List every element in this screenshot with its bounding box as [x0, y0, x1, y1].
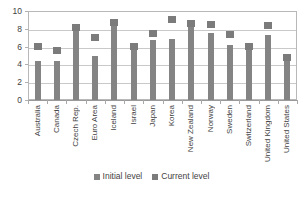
legend-item: Initial level	[94, 172, 143, 181]
marker-current-level	[91, 34, 99, 41]
bars-layer	[28, 11, 297, 100]
legend-swatch-icon	[152, 174, 158, 180]
marker-current-level	[53, 47, 61, 54]
x-tick-label: Korea	[168, 105, 176, 126]
x-tick-label: Israel	[130, 105, 138, 125]
x-tick-label: Euro Area	[91, 105, 99, 141]
bar-initial-level	[169, 39, 175, 100]
x-tick-label: United Kingdom	[264, 105, 272, 162]
marker-current-level	[72, 24, 80, 31]
y-axis: 0246810	[0, 0, 26, 111]
x-tick-label: Japan	[149, 105, 157, 127]
x-tick-label: Iceland	[110, 105, 118, 131]
marker-current-level	[245, 43, 253, 50]
x-tick-mark	[163, 100, 164, 104]
marker-current-level	[264, 22, 272, 29]
marker-current-level	[149, 30, 157, 37]
bar-initial-level	[54, 61, 60, 100]
x-tick-mark	[259, 100, 260, 104]
bar-initial-level	[188, 26, 194, 100]
marker-current-level	[34, 43, 42, 50]
x-tick-label: New Zealand	[187, 105, 195, 152]
x-tick-mark	[182, 100, 183, 104]
x-tick-mark	[124, 100, 125, 104]
x-tick-label: Canada	[53, 105, 61, 133]
x-tick-mark	[143, 100, 144, 104]
marker-current-level	[283, 54, 291, 61]
bar-initial-level	[284, 60, 290, 100]
bar-initial-level	[35, 61, 41, 100]
y-tick-label: 4	[17, 60, 22, 69]
marker-current-level	[226, 31, 234, 38]
x-tick-label: Czech Rep.	[72, 105, 80, 147]
y-tick-label: 2	[17, 78, 22, 87]
legend-label: Initial level	[103, 172, 143, 181]
bar-initial-level	[92, 56, 98, 100]
marker-current-level	[110, 19, 118, 26]
bar-initial-level	[111, 25, 117, 100]
x-tick-mark	[28, 100, 29, 104]
x-axis-labels: AustraliaCanadaCzech Rep.Euro AreaIcelan…	[28, 105, 297, 163]
chart-legend: Initial levelCurrent level	[0, 172, 303, 181]
x-tick-label: United States	[283, 105, 291, 153]
x-tick-label: Switzerland	[245, 105, 253, 146]
marker-current-level	[187, 20, 195, 27]
marker-current-level	[130, 43, 138, 50]
y-tick-label: 0	[17, 96, 22, 105]
y-tick-label: 8	[17, 25, 22, 34]
x-tick-label: Australia	[34, 105, 42, 136]
x-tick-label: Sweden	[226, 105, 234, 134]
bar-initial-level	[246, 48, 252, 100]
bar-initial-level	[227, 45, 233, 100]
bar-initial-level	[131, 48, 137, 100]
marker-current-level	[207, 21, 215, 28]
x-tick-mark	[239, 100, 240, 104]
bar-initial-level	[265, 35, 271, 100]
x-tick-mark	[105, 100, 106, 104]
bar-chart: 0246810 AustraliaCanadaCzech Rep.Euro Ar…	[0, 0, 303, 197]
legend-label: Current level	[161, 172, 209, 181]
x-tick-mark	[297, 100, 298, 104]
x-tick-mark	[86, 100, 87, 104]
legend-swatch-icon	[94, 174, 100, 180]
x-tick-mark	[220, 100, 221, 104]
x-tick-mark	[201, 100, 202, 104]
legend-item: Current level	[152, 172, 209, 181]
bar-initial-level	[73, 30, 79, 100]
x-tick-mark	[47, 100, 48, 104]
y-tick-label: 10	[13, 7, 22, 16]
x-tick-label: Norway	[207, 105, 215, 132]
bar-initial-level	[150, 40, 156, 100]
marker-current-level	[168, 16, 176, 23]
bar-initial-level	[208, 33, 214, 100]
y-tick-label: 6	[17, 42, 22, 51]
x-tick-mark	[66, 100, 67, 104]
x-tick-mark	[278, 100, 279, 104]
